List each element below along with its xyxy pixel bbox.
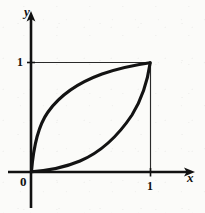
y-axis-label: y [24, 5, 30, 18]
y-tick-label-1: 1 [17, 56, 23, 68]
figure-canvas: y x 0 1 1 [0, 0, 205, 213]
x-tick-label-1: 1 [147, 180, 153, 192]
y-axis [27, 11, 36, 208]
plot-area [0, 0, 205, 213]
origin-label: 0 [20, 175, 27, 188]
x-axis-label: x [187, 171, 194, 184]
